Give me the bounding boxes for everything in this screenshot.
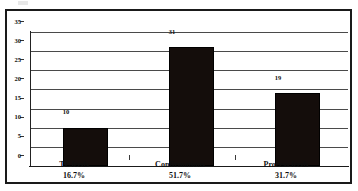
category-label-process-feeds: Process feeds 31.7% bbox=[231, 160, 341, 181]
plot-area bbox=[30, 32, 348, 166]
bar-value-process-feeds: 19 bbox=[252, 74, 304, 82]
category-percent-confirmations: 51.7% bbox=[125, 171, 235, 182]
y-tick-label-5: 5 bbox=[3, 132, 21, 139]
y-axis-tick-labels: 35 30 25 20 15 10 5 0 bbox=[0, 0, 21, 191]
category-percent-tl-feeds: 16.7% bbox=[19, 171, 129, 182]
bar-value-confirmations: 31 bbox=[146, 28, 198, 36]
category-label-tl-feeds: TL feeds 16.7% bbox=[19, 160, 129, 181]
category-name-process-feeds: Process feeds bbox=[231, 160, 341, 171]
bar-confirmations bbox=[169, 47, 214, 166]
y-tick-label-35: 35 bbox=[3, 18, 21, 25]
bar-value-tl-feeds: 10 bbox=[40, 108, 92, 116]
y-tick-label-30: 30 bbox=[3, 37, 21, 44]
y-axis-line bbox=[30, 31, 31, 167]
bar-process-feeds bbox=[275, 93, 320, 166]
bar-chart-figure: 35 30 25 20 15 10 5 0 10 31 19 TL feeds … bbox=[0, 0, 358, 191]
y-tick-label-25: 25 bbox=[3, 56, 21, 63]
category-percent-process-feeds: 31.7% bbox=[231, 171, 341, 182]
category-name-tl-feeds: TL feeds bbox=[19, 160, 129, 171]
y-tick-label-0: 0 bbox=[3, 152, 21, 159]
category-label-confirmations: Confirmations 51.7% bbox=[125, 160, 235, 181]
y-tick-label-15: 15 bbox=[3, 94, 21, 101]
y-tick-label-20: 20 bbox=[3, 75, 21, 82]
category-name-confirmations: Confirmations bbox=[125, 160, 235, 171]
y-tick-label-10: 10 bbox=[3, 113, 21, 120]
